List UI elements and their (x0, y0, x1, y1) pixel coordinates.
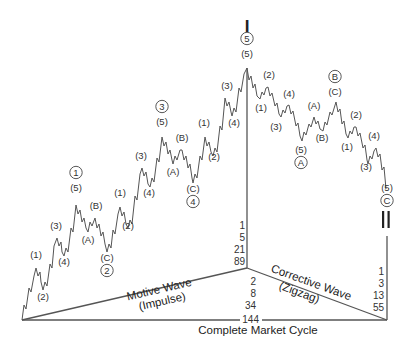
wave-label: (B) (176, 132, 189, 143)
wave-label: (3) (135, 150, 147, 161)
wave-degree-label: C (384, 195, 391, 206)
wave-label: (B) (316, 132, 329, 143)
wave-label: (2) (37, 291, 49, 302)
wave-label: (5) (156, 116, 168, 127)
svg-text:55: 55 (373, 302, 385, 313)
wave-label: (1) (114, 187, 126, 198)
wave-label: (5) (381, 182, 393, 193)
wave-label: (A) (167, 166, 180, 177)
wave-degree-label: 4 (190, 196, 195, 207)
wave-label: (1) (30, 249, 42, 260)
wave-label: (3) (50, 220, 62, 231)
degree-label-bottom (382, 211, 390, 228)
wave-label: (5) (70, 182, 82, 193)
wave-label: (2) (122, 220, 134, 231)
wave-label: (4) (283, 88, 295, 99)
corrective-counts: 2 8 34 144 (242, 276, 259, 325)
wave-label: (C) (328, 86, 341, 97)
svg-text:13: 13 (373, 290, 385, 301)
svg-text:89: 89 (234, 256, 246, 267)
motive-counts: 1 5 21 89 (234, 220, 246, 267)
svg-text:2: 2 (250, 276, 256, 287)
wave-label: (4) (143, 187, 155, 198)
complete-market-cycle-caption: Complete Market Cycle (198, 324, 318, 336)
wave-degree-label: A (298, 157, 305, 168)
wave-label: (4) (228, 117, 240, 128)
wave-label: (3) (270, 121, 282, 132)
wave-label: (C) (186, 183, 199, 194)
wave-label: (1) (255, 102, 267, 113)
wave-degree-label: 3 (159, 101, 164, 112)
wave-label: (3) (221, 80, 233, 91)
wave-label: (2) (350, 109, 362, 120)
svg-text:8: 8 (250, 288, 256, 299)
wave-degree-label: 5 (244, 33, 249, 44)
wave-label: (1) (341, 141, 353, 152)
wave-label: (1) (198, 117, 210, 128)
wave-label: (B) (90, 200, 103, 211)
wave-label: (2) (263, 69, 275, 80)
svg-text:3: 3 (378, 278, 384, 289)
wave-label: (3) (360, 161, 372, 172)
wave-label: (C) (100, 252, 113, 263)
svg-text:21: 21 (234, 244, 246, 255)
svg-text:1: 1 (239, 220, 245, 231)
wave-label: (5) (295, 144, 307, 155)
wave-label: (2) (208, 151, 220, 162)
zigzag-counts: 1 3 13 55 (373, 266, 385, 313)
diagram-canvas: I (1)(2)(3)(4)(5)1(A)(B)(C)2(1)(2)(3)(4)… (0, 0, 411, 352)
svg-text:34: 34 (245, 300, 257, 311)
wave-labels: (1)(2)(3)(4)(5)1(A)(B)(C)2(1)(2)(3)(4)(5… (30, 32, 393, 302)
elliott-wave-diagram: I (1)(2)(3)(4)(5)1(A)(B)(C)2(1)(2)(3)(4)… (0, 0, 411, 352)
wave-label: (A) (82, 234, 95, 245)
wave-label: (4) (368, 130, 380, 141)
wave-label: (4) (58, 256, 70, 267)
svg-text:1: 1 (378, 266, 384, 277)
wave-label: (5) (241, 48, 253, 59)
wave-degree-label: 2 (104, 265, 109, 276)
wave-degree-label: B (332, 71, 338, 82)
wave-label: (A) (308, 100, 321, 111)
svg-text:5: 5 (239, 232, 245, 243)
wave-degree-label: 1 (73, 167, 78, 178)
